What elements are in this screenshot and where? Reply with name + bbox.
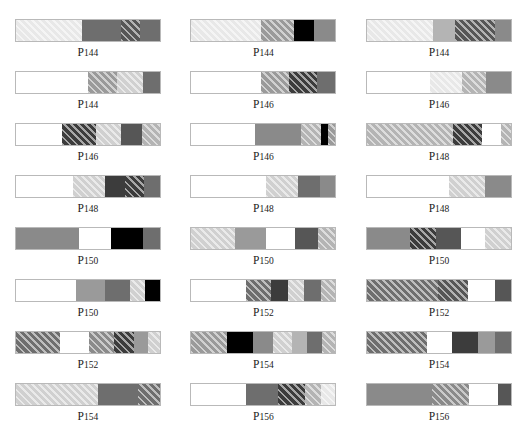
segmented-bar xyxy=(15,383,161,406)
bar-segment xyxy=(134,332,148,353)
segmented-bar xyxy=(366,279,512,302)
bar-label-number: 150 xyxy=(84,308,98,318)
bar-cell: P152 xyxy=(351,274,527,326)
bar-segment xyxy=(273,332,292,353)
bar-segment xyxy=(138,384,160,405)
bar-segment xyxy=(266,228,295,249)
bar-segment xyxy=(430,72,462,93)
bar-segment xyxy=(227,332,253,353)
bar-segment xyxy=(486,72,510,93)
bar-segment xyxy=(191,228,234,249)
bar-label: P144 xyxy=(429,47,450,59)
bar-label: P146 xyxy=(429,99,450,111)
bar-segment xyxy=(288,280,304,301)
bar-segment xyxy=(16,332,61,353)
segmented-bar xyxy=(366,123,512,146)
bar-label-number: 150 xyxy=(435,256,449,266)
bar-segment xyxy=(117,72,143,93)
bar-cell: P144 xyxy=(0,14,176,66)
bar-segment xyxy=(105,176,125,197)
bar-segment xyxy=(130,280,146,301)
bar-label-number: 154 xyxy=(84,412,98,422)
bar-segment xyxy=(266,176,298,197)
bar-label: P152 xyxy=(429,307,450,319)
bar-row: P150P152P152 xyxy=(0,274,527,326)
bar-segment xyxy=(82,20,121,41)
bar-label-number: 152 xyxy=(435,308,449,318)
segmented-bar xyxy=(190,175,336,198)
bar-cell: P146 xyxy=(176,66,352,118)
bar-segment xyxy=(16,228,79,249)
bar-segment xyxy=(191,124,254,145)
bar-segment xyxy=(468,280,495,301)
bar-segment xyxy=(143,228,160,249)
bar-segment xyxy=(16,384,98,405)
bar-cell: P144 xyxy=(0,66,176,118)
bar-segment xyxy=(322,332,335,353)
bar-segment xyxy=(89,332,113,353)
bar-segment xyxy=(485,176,511,197)
segmented-bar xyxy=(15,227,161,250)
bar-label: P144 xyxy=(77,47,98,59)
bar-cell: P146 xyxy=(351,66,527,118)
segmented-bar xyxy=(15,19,161,42)
bar-label: P144 xyxy=(77,99,98,111)
segmented-bar xyxy=(190,383,336,406)
bar-label-number: 156 xyxy=(259,412,273,422)
bar-segment xyxy=(253,332,273,353)
segmented-bar xyxy=(366,383,512,406)
bar-cell: P144 xyxy=(176,14,352,66)
bar-segment xyxy=(121,20,140,41)
bar-segment xyxy=(367,124,453,145)
bar-segment xyxy=(261,20,294,41)
bar-cell: P154 xyxy=(351,326,527,378)
segmented-bar xyxy=(15,175,161,198)
bar-segment xyxy=(105,280,129,301)
bar-segment xyxy=(148,332,160,353)
bar-label-number: 144 xyxy=(84,100,98,110)
bar-segment xyxy=(367,384,432,405)
bar-row: P154P156P156 xyxy=(0,378,527,430)
bar-label: P148 xyxy=(429,203,450,215)
bar-segment xyxy=(145,280,159,301)
bar-segment xyxy=(305,384,321,405)
bar-segment xyxy=(495,20,511,41)
bar-segment xyxy=(261,72,290,93)
bar-segment xyxy=(453,124,482,145)
segmented-bar xyxy=(15,123,161,146)
bar-row: P148P148P148 xyxy=(0,170,527,222)
bar-segment xyxy=(271,280,288,301)
bar-segment xyxy=(495,280,511,301)
bar-segment xyxy=(367,72,430,93)
segmented-bar xyxy=(15,279,161,302)
bar-segment xyxy=(142,124,159,145)
bar-row: P152P154P154 xyxy=(0,326,527,378)
bar-label: P154 xyxy=(429,359,450,371)
bar-label: P150 xyxy=(77,307,98,319)
segmented-bar xyxy=(366,331,512,354)
bar-cell: P150 xyxy=(0,222,176,274)
segmented-bar xyxy=(190,19,336,42)
segmented-bar xyxy=(366,227,512,250)
bar-segment xyxy=(307,332,323,353)
bar-segment xyxy=(301,124,321,145)
bar-label-number: 156 xyxy=(435,412,449,422)
bar-segment xyxy=(235,228,267,249)
bar-label: P152 xyxy=(77,359,98,371)
bar-label-number: 144 xyxy=(435,48,449,58)
bar-cell: P146 xyxy=(176,118,352,170)
segmented-bar xyxy=(366,71,512,94)
bar-cell: P152 xyxy=(0,326,176,378)
bar-segment xyxy=(76,280,105,301)
bar-segment xyxy=(317,72,336,93)
bar-segment xyxy=(111,228,143,249)
bar-segment xyxy=(140,20,160,41)
bar-segment xyxy=(295,228,318,249)
bar-segment xyxy=(143,72,160,93)
bar-segment xyxy=(498,384,511,405)
segmented-bar xyxy=(190,123,336,146)
bar-cell: P146 xyxy=(0,118,176,170)
bar-segment xyxy=(321,124,328,145)
bar-label: P148 xyxy=(253,203,274,215)
bar-segment xyxy=(318,228,335,249)
